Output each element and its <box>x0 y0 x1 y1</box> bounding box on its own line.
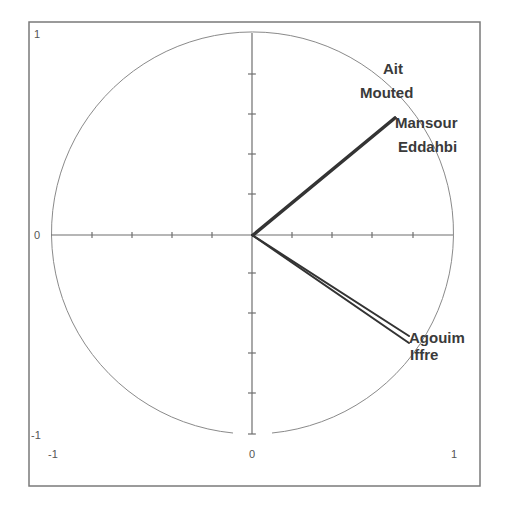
vector-mansour-eddahbi <box>253 118 396 236</box>
vector-iffre <box>252 235 409 343</box>
label-mansour: Mansour <box>395 114 458 131</box>
x-tick-label-mid: 0 <box>249 448 255 460</box>
x-tick-label-right: 1 <box>451 448 457 460</box>
vector-ait-mouted <box>252 117 395 235</box>
label-iffre: Iffre <box>410 346 438 363</box>
y-tick-label-bottom: -1 <box>31 429 41 441</box>
y-tick-label-top: 1 <box>34 28 40 40</box>
label-ait: Ait <box>383 60 403 77</box>
label-eddahbi: Eddahbi <box>398 138 457 155</box>
correlation-circle-chart: 1 0 -1 -1 0 1 Ait Mouted Mansour Eddahbi… <box>0 0 505 517</box>
y-tick-label-mid: 0 <box>34 229 40 241</box>
label-agouim: Agouim <box>409 329 465 346</box>
x-tick-label-left: -1 <box>48 448 58 460</box>
label-mouted: Mouted <box>360 84 413 101</box>
